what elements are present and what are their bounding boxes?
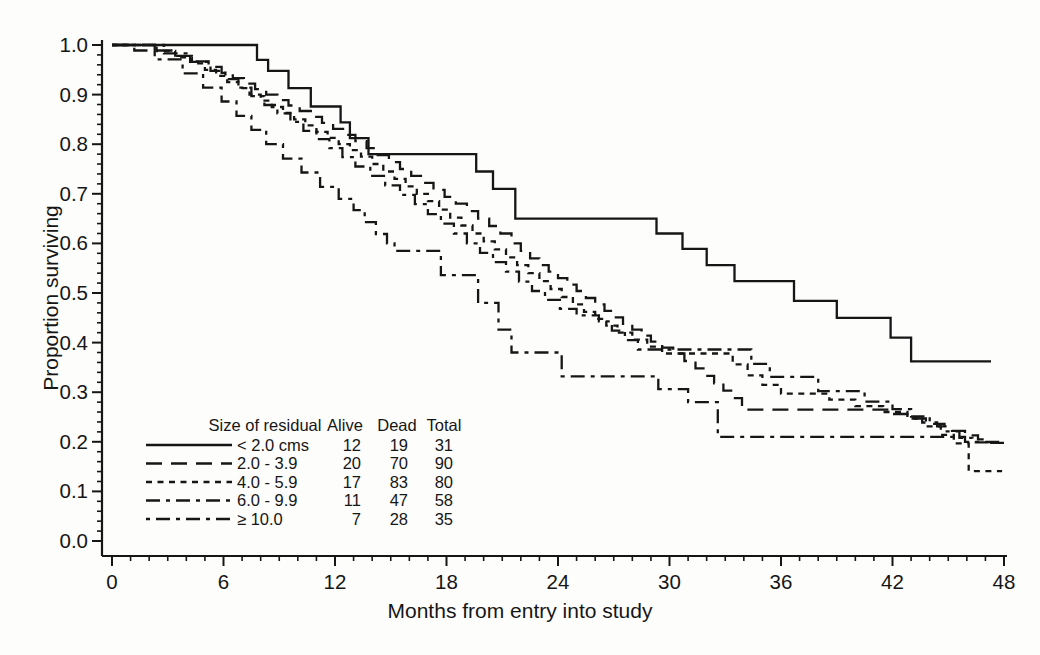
y-tick-label: 1.0 <box>60 33 89 56</box>
x-tick-label: 18 <box>435 570 458 593</box>
y-tick-label: 0.9 <box>60 83 89 106</box>
legend-total-value: 90 <box>435 454 453 472</box>
legend-total-value: 31 <box>435 436 453 454</box>
x-tick-label: 48 <box>993 570 1016 593</box>
km-survival-figure: 0.00.10.20.30.40.50.60.70.80.91.00612182… <box>0 0 1040 655</box>
x-tick-label: 30 <box>658 570 681 593</box>
legend-row-label: 4.0 - 5.9 <box>237 473 298 491</box>
y-tick-label: 0.1 <box>60 479 89 502</box>
series-curve-5 <box>112 45 1004 442</box>
legend-total-value: 58 <box>435 491 453 509</box>
axis-ticks <box>92 45 1004 566</box>
legend-rows: < 2.0 cms1219312.0 - 3.92070904.0 - 5.91… <box>146 436 453 528</box>
legend-header-total: Total <box>427 416 462 434</box>
legend-row-label: < 2.0 cms <box>237 436 309 454</box>
survival-curves <box>112 45 1004 471</box>
legend-dead-value: 47 <box>390 491 408 509</box>
legend-alive-value: 17 <box>343 473 361 491</box>
legend-row-label: 6.0 - 9.9 <box>237 491 298 509</box>
legend-header-alive: Alive <box>327 416 363 434</box>
y-tick-label: 0.5 <box>60 281 89 304</box>
legend-header-dead: Dead <box>377 416 416 434</box>
legend-row-label: ≥ 10.0 <box>237 510 283 528</box>
series-curve-1 <box>112 45 991 361</box>
legend-dead-value: 28 <box>390 510 408 528</box>
x-tick-label: 12 <box>324 570 347 593</box>
legend-alive-value: 12 <box>343 436 361 454</box>
y-tick-label: 0.2 <box>60 430 89 453</box>
y-tick-label: 0.8 <box>60 132 89 155</box>
x-tick-label: 36 <box>770 570 793 593</box>
legend-total-value: 35 <box>435 510 453 528</box>
series-curve-4 <box>112 45 1004 442</box>
x-tick-label: 6 <box>218 570 229 593</box>
legend-alive-value: 7 <box>352 510 361 528</box>
legend: Size of residual Alive Dead Total < 2.0 … <box>146 416 461 528</box>
x-tick-label: 42 <box>881 570 904 593</box>
legend-alive-value: 20 <box>343 454 361 472</box>
y-tick-label: 0.4 <box>60 331 89 354</box>
y-tick-label: 0.3 <box>60 380 89 403</box>
y-axis-title: Proportion surviving <box>39 205 62 391</box>
x-tick-label: 24 <box>547 570 570 593</box>
legend-header-size: Size of residual <box>209 416 322 434</box>
axis-tick-labels: 0.00.10.20.30.40.50.60.70.80.91.00612182… <box>60 33 1016 593</box>
survival-chart: 0.00.10.20.30.40.50.60.70.80.91.00612182… <box>0 0 1040 655</box>
legend-dead-value: 83 <box>390 473 408 491</box>
legend-dead-value: 70 <box>390 454 408 472</box>
y-tick-label: 0.0 <box>60 529 89 552</box>
x-tick-label: 0 <box>106 570 117 593</box>
legend-alive-value: 11 <box>344 491 361 509</box>
x-axis-title: Months from entry into study <box>388 599 653 622</box>
legend-total-value: 80 <box>435 473 453 491</box>
series-curve-2 <box>112 45 1004 443</box>
y-tick-label: 0.7 <box>60 182 89 205</box>
legend-dead-value: 19 <box>390 436 408 454</box>
y-tick-label: 0.6 <box>60 231 89 254</box>
series-curve-3 <box>112 45 1002 471</box>
legend-row-label: 2.0 - 3.9 <box>237 454 298 472</box>
